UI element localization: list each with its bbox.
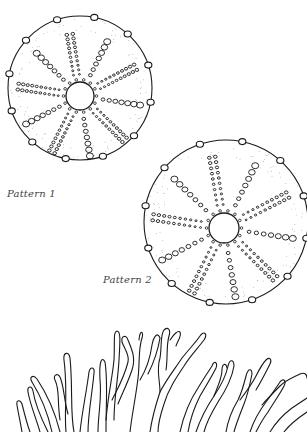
sea-urchin-pattern-1 xyxy=(6,14,154,161)
illustration-canvas: Pattern 1 Pattern 2 xyxy=(0,0,307,432)
pattern-1-label: Pattern 1 xyxy=(7,188,56,199)
sea-urchin-pattern-2 xyxy=(142,139,307,306)
coral-branches xyxy=(17,328,307,432)
illustration-svg xyxy=(0,0,307,432)
pattern-2-label: Pattern 2 xyxy=(103,274,152,285)
